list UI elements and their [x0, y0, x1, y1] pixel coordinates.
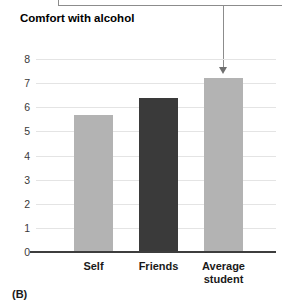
bar-friends: [139, 98, 178, 252]
y-axis-tick-label: 6: [14, 102, 30, 112]
plot-area: 012345678: [36, 59, 276, 252]
y-axis-tick-label: 7: [14, 78, 30, 88]
y-axis-tick-label: 2: [14, 199, 30, 209]
y-axis-tick-label: 1: [14, 223, 30, 233]
y-axis-tick-label: 3: [14, 175, 30, 185]
y-axis-tick-label: 0: [14, 247, 30, 257]
bar-self: [74, 115, 113, 253]
x-axis-label-average-student: Average student: [184, 260, 264, 286]
panel-label: (B): [12, 288, 27, 300]
y-axis-tick-label: 8: [14, 54, 30, 64]
callout-box: [58, 0, 282, 6]
y-axis-tick-label: 5: [14, 126, 30, 136]
x-axis-baseline: [30, 251, 276, 253]
y-axis-tick-label: 4: [14, 151, 30, 161]
bar-average-student: [204, 78, 243, 252]
gridline: [36, 59, 276, 60]
figure-panel-b: Comfort with alcohol 012345678 (B) SelfF…: [0, 0, 282, 308]
y-axis-title: Comfort with alcohol: [20, 11, 150, 25]
